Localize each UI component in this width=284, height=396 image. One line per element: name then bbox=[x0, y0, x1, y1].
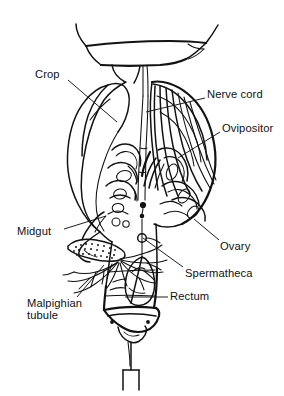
label-crop: Crop bbox=[35, 68, 60, 80]
label-ovipositor: Ovipositor bbox=[222, 122, 273, 134]
mid-organ-cluster bbox=[106, 144, 141, 227]
pylorus-stipple bbox=[68, 239, 125, 261]
crop-sac bbox=[67, 82, 129, 232]
label-spermatheca: Spermatheca bbox=[185, 267, 253, 279]
thorax-cut-rim bbox=[76, 24, 218, 66]
label-ovary: Ovary bbox=[220, 240, 250, 252]
esophagus-stalk bbox=[112, 65, 148, 96]
label-malpighian-tubule: Malpighian tubule bbox=[27, 297, 82, 322]
leader-ovary bbox=[194, 219, 219, 240]
label-rectum: Rectum bbox=[170, 290, 209, 302]
anatomy-drawing bbox=[0, 0, 284, 396]
label-midgut: Midgut bbox=[17, 225, 51, 237]
anatomy-figure: Crop Nerve cord Ovipositor Midgut Ovary … bbox=[0, 0, 284, 396]
label-nerve-cord: Nerve cord bbox=[207, 88, 263, 100]
sting-plate bbox=[104, 307, 159, 343]
sting-needle bbox=[128, 342, 131, 370]
sting-tip-box bbox=[123, 370, 139, 390]
